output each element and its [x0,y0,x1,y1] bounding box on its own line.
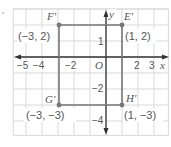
vertex-H-coord-label: (1, −3) [124,109,156,121]
y-tick-label: −4 [92,115,104,126]
x-tick-label: −4 [33,60,45,71]
vertex-E-coord-label: (1, 2) [125,30,151,42]
vertex-F-point [57,23,62,28]
origin-label: O [95,59,103,71]
x-tick-label: 3 [149,60,155,71]
y-tick-label: 1 [98,36,104,47]
vertex-F-label: F′ [46,10,57,22]
x-axis-label: x [159,59,165,71]
x-tick-label: 2 [134,60,140,71]
vertex-H-label: H′ [125,92,137,104]
x-tick-label: −2 [65,60,77,71]
bullet-dot [2,12,4,14]
vertex-G-coord-label: (−3, −3) [26,109,65,121]
vertex-E-point [120,23,125,28]
vertex-F-coord-label: (−3, 2) [18,30,50,42]
coordinate-plane-figure: F′ E′ G′ H′ (−3, 2) (1, 2) (−3, −3) (1, … [0,0,171,147]
vertex-H-point [120,103,125,108]
y-axis-label: y [108,8,114,20]
x-tick-label: −5 [17,60,29,71]
y-axis-up-arrow-icon [104,10,109,17]
vertex-G-point [57,103,62,108]
y-axis-down-arrow-icon [104,128,109,135]
vertex-G-label: G′ [45,93,56,105]
y-tick-label: −2 [92,83,104,94]
x-axis-left-arrow-icon [14,55,21,60]
coordinate-plane-svg: F′ E′ G′ H′ (−3, 2) (1, 2) (−3, −3) (1, … [0,0,171,147]
vertex-E-label: E′ [123,10,134,22]
